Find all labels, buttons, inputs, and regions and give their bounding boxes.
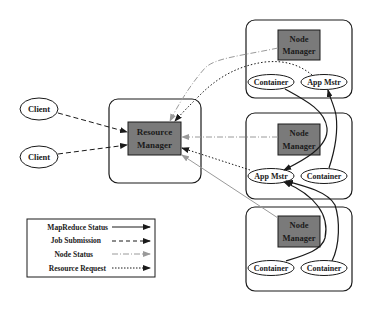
legend-label-job-submission: Job Submission — [51, 236, 102, 245]
container-label: Container — [307, 172, 342, 181]
node-manager-2-label-1: Node — [290, 128, 309, 138]
app-master-label: App Mstr — [254, 172, 288, 181]
legend-label-resource-request: Resource Request — [49, 264, 107, 273]
container-label: Container — [254, 264, 289, 273]
app-master-label: App Mstr — [307, 78, 341, 87]
legend: MapReduce Status Job Submission Node Sta… — [27, 219, 155, 277]
client-label: Client — [28, 152, 50, 162]
container-label: Container — [254, 78, 289, 87]
client-label: Client — [28, 104, 50, 114]
node-manager-3-label-1: Node — [290, 220, 309, 230]
node-manager-1-label-1: Node — [290, 34, 309, 44]
resource-manager-group: Resource Manager — [109, 99, 201, 183]
yarn-architecture-diagram: Resource Manager Node Manager Container … — [0, 0, 371, 309]
node-1-group: Node Manager Container App Mstr — [246, 20, 352, 98]
resource-manager-label-2: Manager — [137, 140, 172, 150]
client-1: Client — [20, 98, 58, 120]
node-2-group: Node Manager App Mstr Container — [246, 113, 352, 199]
node-manager-1-label-2: Manager — [282, 46, 315, 56]
node-manager-3-label-2: Manager — [282, 233, 315, 243]
container-label: Container — [307, 264, 342, 273]
client-2: Client — [20, 146, 58, 168]
legend-label-mapreduce-status: MapReduce Status — [47, 223, 108, 232]
legend-label-node-status: Node Status — [54, 250, 93, 259]
resource-manager-label-1: Resource — [137, 127, 172, 137]
node-manager-2-label-2: Manager — [282, 141, 315, 151]
